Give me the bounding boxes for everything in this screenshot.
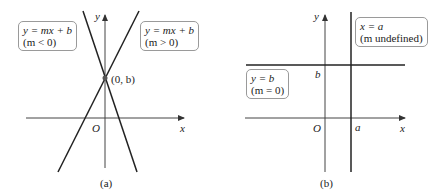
b-intercept-label: b [315, 68, 321, 80]
panel-b-y-label: y [314, 10, 319, 22]
y-intercept-label: (0, b) [111, 73, 135, 85]
equation-text: y = mx + b [145, 24, 194, 36]
equation-text: y = b [251, 72, 284, 84]
panel-a-y-label: y [95, 10, 100, 22]
panel-b-caption: (b) [320, 177, 333, 189]
equation-text: y = mx + b [23, 24, 72, 36]
a-intercept-label: a [355, 121, 361, 133]
panel-b-origin-label: O [313, 122, 321, 134]
line-negative-slope [83, 11, 137, 172]
y-intercept-point [103, 76, 108, 81]
equation-box-negative-slope: y = mx + b (m < 0) [18, 21, 77, 51]
slope-condition: (m = 0) [251, 84, 284, 96]
equation-text: x = a [360, 20, 423, 32]
panel-b-x-label: x [400, 122, 405, 134]
panel-a-caption: (a) [100, 177, 112, 189]
slope-condition: (m < 0) [23, 36, 72, 48]
slope-condition: (m undefined) [360, 32, 423, 44]
panel-a-origin-label: O [92, 122, 100, 134]
panel-a-x-label: x [180, 122, 185, 134]
equation-box-horizontal-line: y = b (m = 0) [246, 69, 289, 99]
slope-condition: (m > 0) [145, 36, 194, 48]
equation-box-positive-slope: y = mx + b (m > 0) [140, 21, 199, 51]
equation-box-vertical-line: x = a (m undefined) [355, 17, 428, 47]
